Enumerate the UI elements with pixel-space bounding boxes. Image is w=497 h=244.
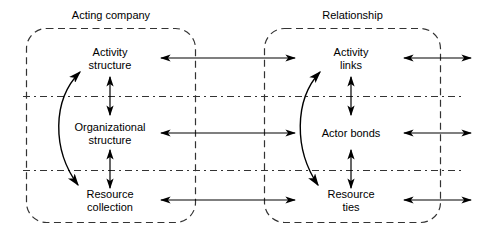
node-activity-structure-line2: structure [89, 58, 132, 71]
node-resource-ties-line2: ties [327, 200, 374, 213]
node-activity-links-line2: links [334, 58, 369, 71]
node-resource-collection-line2: collection [86, 200, 133, 213]
diagram-canvas: Acting company Relationship Activity str… [0, 0, 497, 244]
acting-company-title: Acting company [26, 9, 196, 22]
node-organizational-structure: Organizational structure [75, 121, 146, 146]
node-activity-structure: Activity structure [89, 46, 132, 71]
node-activity-links: Activity links [334, 46, 369, 71]
curved-arrow-activity-links-resource-ties [300, 72, 320, 185]
node-resource-ties-line1: Resource [327, 188, 374, 201]
node-activity-links-line1: Activity [334, 46, 369, 59]
node-organizational-structure-line2: structure [75, 133, 146, 146]
node-activity-structure-line1: Activity [89, 46, 132, 59]
node-resource-collection: Resource collection [86, 188, 133, 213]
node-resource-ties: Resource ties [327, 188, 374, 213]
node-resource-collection-line1: Resource [86, 188, 133, 201]
relationship-title: Relationship [264, 9, 441, 22]
node-actor-bonds-line1: Actor bonds [322, 127, 381, 140]
node-actor-bonds: Actor bonds [322, 127, 381, 140]
node-organizational-structure-line1: Organizational [75, 121, 146, 134]
